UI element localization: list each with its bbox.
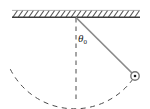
ceiling-hatch-marks: [13, 11, 139, 18]
pendulum-figure: θ0: [0, 0, 150, 109]
angle-subscript: 0: [83, 38, 87, 46]
ceiling-support: [12, 10, 140, 17]
angle-label-theta-zero: θ0: [78, 33, 87, 44]
swing-arc-dashed: [10, 69, 135, 109]
pendulum-bob: [131, 72, 139, 80]
pendulum-diagram-svg: [0, 0, 150, 109]
pendulum-string: [76, 18, 134, 76]
